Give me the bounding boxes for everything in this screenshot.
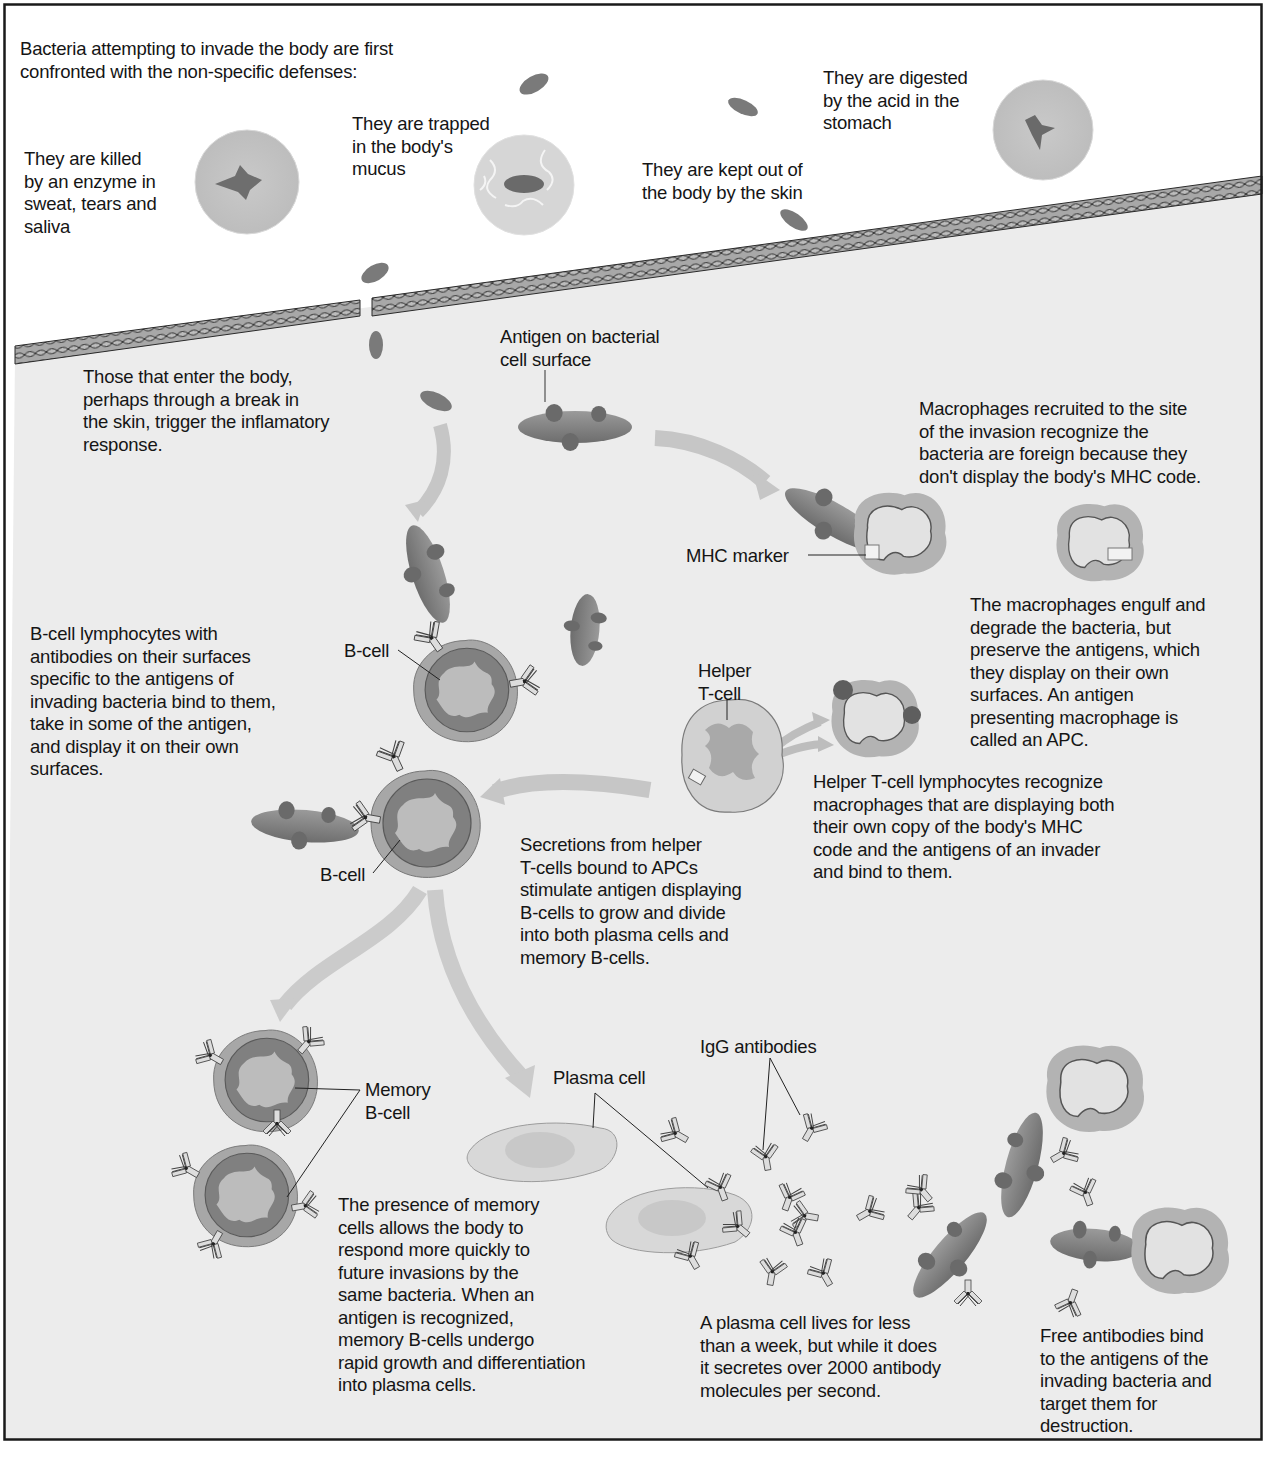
plasma-cell-label: Plasma cell xyxy=(553,1067,645,1090)
helper-tcell-label: Helper T-cell xyxy=(698,660,751,705)
bcell-label-bottom: B-cell xyxy=(320,864,365,887)
skin-defense-text: They are kept out of the body by the ski… xyxy=(642,159,803,204)
free-antibodies-text: Free antibodies bind to the antigens of … xyxy=(1040,1325,1212,1438)
enzyme-defense-text: They are killed by an enzyme in sweat, t… xyxy=(24,148,157,238)
bcell-description-text: B-cell lymphocytes with antibodies on th… xyxy=(30,623,276,781)
stomach-defense-text: They are digested by the acid in the sto… xyxy=(823,67,968,135)
helper-tcell-description-text: Helper T-cell lymphocytes recognize macr… xyxy=(813,771,1114,884)
memory-cells-text: The presence of memory cells allows the … xyxy=(338,1194,585,1397)
mucus-defense-text: They are trapped in the body's mucus xyxy=(352,113,490,181)
macrophage-engulf-text: The macrophages engulf and degrade the b… xyxy=(970,594,1205,752)
plasma-cell-text: A plasma cell lives for less than a week… xyxy=(700,1312,941,1402)
memory-bcell-label: Memory B-cell xyxy=(365,1079,431,1124)
antigen-label: Antigen on bacterial cell surface xyxy=(500,326,660,371)
bcell-label-top: B-cell xyxy=(344,640,389,663)
immune-response-diagram: Bacteria attempting to invade the body a… xyxy=(0,0,1267,1466)
secretions-text: Secretions from helper T-cells bound to … xyxy=(520,834,742,969)
inflammation-text: Those that enter the body, perhaps throu… xyxy=(83,366,329,456)
igg-antibodies-label: IgG antibodies xyxy=(700,1036,817,1059)
macrophage-recruit-text: Macrophages recruited to the site of the… xyxy=(919,398,1201,488)
intro-text: Bacteria attempting to invade the body a… xyxy=(20,38,393,83)
mhc-marker-label: MHC marker xyxy=(686,545,789,568)
